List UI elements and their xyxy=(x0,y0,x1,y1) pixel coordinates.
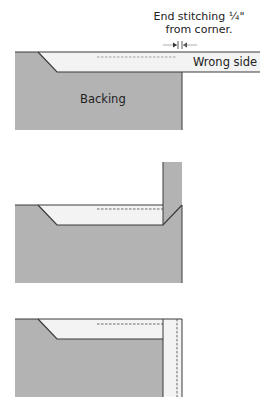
caption-line-2: from corner. xyxy=(140,23,258,36)
binding-strip-horizontal xyxy=(38,205,163,225)
binding-strip-horizontal xyxy=(38,319,163,339)
caption-line-1: End stitching ¼" xyxy=(140,10,258,23)
backing-label: Backing xyxy=(80,92,126,106)
quarter-inch-marker xyxy=(163,41,197,49)
wrong-side-label: Wrong side xyxy=(193,55,257,69)
step-2 xyxy=(15,162,182,283)
binding-strip-folded-down xyxy=(163,319,182,397)
stitching-caption: End stitching ¼" from corner. xyxy=(140,10,258,36)
step-3 xyxy=(15,319,182,397)
